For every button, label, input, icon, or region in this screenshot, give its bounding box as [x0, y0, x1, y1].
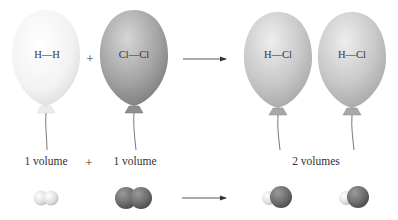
plus-sign-bottom: +: [85, 155, 92, 171]
h2-molecule: [34, 191, 59, 206]
hcl-balloon-2: [318, 12, 386, 150]
cl2-molecule: [115, 187, 152, 209]
hcl-balloon-1: [244, 12, 312, 150]
cl2-volume-label: 1 volume: [113, 155, 156, 167]
h2-balloon: [12, 10, 80, 150]
hcl-molecule-1: [262, 186, 292, 208]
plus-sign-top: +: [86, 51, 93, 67]
hcl-formula-label-1: H—Cl: [264, 49, 292, 60]
hcl-formula-label-2: H—Cl: [338, 49, 366, 60]
hcl-molecule-2: [339, 186, 369, 208]
cl2-formula-label: Cl—Cl: [119, 49, 149, 60]
h2-volume-label: 1 volume: [24, 155, 67, 167]
reaction-diagram: [0, 0, 398, 220]
cl2-balloon: [100, 10, 168, 150]
hcl-volume-label: 2 volumes: [292, 155, 340, 167]
h2-formula-label: H—H: [34, 49, 60, 60]
